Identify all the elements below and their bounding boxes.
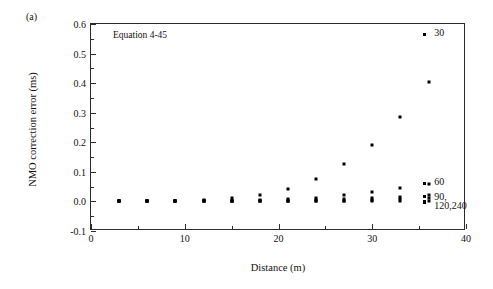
x-tick xyxy=(185,224,186,229)
data-point xyxy=(399,187,402,190)
y-tick-minor xyxy=(91,128,94,129)
legend-label: 30 xyxy=(434,27,444,38)
x-tick xyxy=(279,224,280,229)
data-point xyxy=(146,200,149,203)
legend-item: 30 xyxy=(434,28,444,39)
data-point xyxy=(118,200,121,203)
y-tick-label: 0.6 xyxy=(74,19,87,30)
data-point xyxy=(230,200,233,203)
y-tick xyxy=(91,142,96,143)
x-tick-minor xyxy=(325,226,326,229)
y-axis-title: NMO correction error (ms) xyxy=(27,40,38,220)
y-tick-label: -0.1 xyxy=(70,226,86,237)
data-point xyxy=(286,200,289,203)
data-point xyxy=(202,200,205,203)
x-tick xyxy=(466,224,467,229)
panel-label: (a) xyxy=(26,11,37,22)
data-point xyxy=(174,200,177,203)
data-point xyxy=(343,194,346,197)
y-tick xyxy=(91,83,96,84)
data-point xyxy=(399,200,402,203)
x-tick-label: 20 xyxy=(274,233,284,244)
y-tick xyxy=(91,201,96,202)
y-tick-minor xyxy=(91,68,94,69)
data-point xyxy=(371,144,374,147)
y-tick xyxy=(91,172,96,173)
y-tick xyxy=(91,24,96,25)
x-tick xyxy=(91,224,92,229)
x-tick-label: 10 xyxy=(180,233,190,244)
x-tick-label: 30 xyxy=(367,233,377,244)
figure-panel: (a) NMO correction error (ms) Equation 4… xyxy=(0,0,493,289)
y-tick-label: 0.0 xyxy=(74,196,87,207)
data-point xyxy=(427,182,430,185)
y-tick xyxy=(91,231,96,232)
y-tick xyxy=(91,113,96,114)
equation-annotation: Equation 4-45 xyxy=(113,30,167,40)
legend-marker-icon xyxy=(423,195,426,204)
y-tick-minor xyxy=(91,39,94,40)
x-axis-title: Distance (m) xyxy=(90,262,466,273)
x-tick-minor xyxy=(138,226,139,229)
data-point xyxy=(371,191,374,194)
x-tick-minor xyxy=(419,226,420,229)
data-point xyxy=(427,80,430,83)
x-tick xyxy=(372,224,373,229)
y-tick-minor xyxy=(91,157,94,158)
data-point xyxy=(286,188,289,191)
legend-marker-icon xyxy=(423,33,426,36)
legend-item: 60 xyxy=(434,177,444,188)
data-point xyxy=(343,163,346,166)
plot-area: Equation 4-45 -0.10.00.10.20.30.40.50.60… xyxy=(90,23,465,230)
y-tick xyxy=(91,54,96,55)
data-point xyxy=(315,177,318,180)
x-tick-label: 0 xyxy=(89,233,94,244)
y-tick-minor xyxy=(91,187,94,188)
legend-marker-icon xyxy=(423,182,426,185)
data-point xyxy=(258,193,261,196)
data-point xyxy=(258,200,261,203)
data-point xyxy=(315,200,318,203)
x-tick-label: 40 xyxy=(461,233,471,244)
data-point xyxy=(371,200,374,203)
y-tick-label: 0.2 xyxy=(74,137,87,148)
data-point xyxy=(343,200,346,203)
y-tick-label: 0.3 xyxy=(74,107,87,118)
x-tick-minor xyxy=(232,226,233,229)
y-tick-label: 0.1 xyxy=(74,166,87,177)
y-tick-label: 0.4 xyxy=(74,78,87,89)
y-tick-label: 0.5 xyxy=(74,48,87,59)
legend-item: 120,240 xyxy=(434,201,467,212)
plot-inner: Equation 4-45 -0.10.00.10.20.30.40.50.60… xyxy=(91,24,464,229)
y-tick-minor xyxy=(91,216,94,217)
data-point xyxy=(399,116,402,119)
legend-label: 120,240 xyxy=(434,200,467,211)
y-tick-minor xyxy=(91,98,94,99)
data-point xyxy=(427,199,430,202)
legend-label: 60 xyxy=(434,176,444,187)
